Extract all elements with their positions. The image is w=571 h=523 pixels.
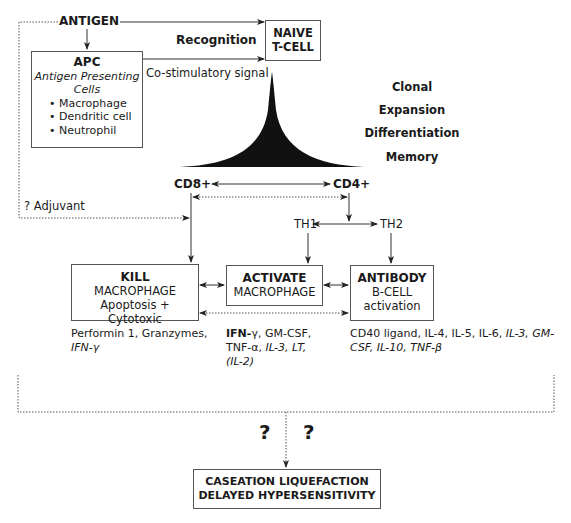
apc-title: APC (32, 56, 142, 70)
kill-line3: Apoptosis + Cytotoxic (72, 298, 198, 326)
stage-clonal: Clonal (352, 80, 472, 94)
antigen-label: ANTIGEN (58, 14, 120, 28)
ifn-label: IFN- (226, 327, 251, 340)
kill-cytokines-line1: Performin 1, Granzymes, (71, 327, 211, 341)
activate-title: ACTIVATE (227, 271, 322, 285)
question-mark-left: ? (259, 420, 271, 444)
activate-line2: MACROPHAGE (227, 285, 322, 299)
outcome-box: CASEATION LIQUEFACTION DELAYED HYPERSENS… (193, 469, 381, 509)
kill-box: KILL MACROPHAGE Apoptosis + Cytotoxic (71, 264, 199, 321)
cd4-label: CD4+ (333, 177, 370, 191)
antibody-box: ANTIBODY B-CELL activation (350, 265, 434, 321)
kill-line2: MACROPHAGE (72, 284, 198, 298)
gamma-gmcsf: γ, GM-CSF, (251, 327, 311, 340)
stage-memory: Memory (352, 150, 472, 164)
antibody-il3: IL-3, GM- (506, 327, 554, 340)
apc-box: APC Antigen Presenting Cells • Macrophag… (31, 51, 143, 148)
antibody-line2: B-CELL (351, 285, 433, 299)
antibody-cytokines-line2: CSF, IL-10, TNF-β (350, 341, 560, 355)
antibody-cytokines-line1: CD40 ligand, IL-4, IL-5, IL-6, (350, 327, 506, 340)
apc-subtitle-2: Cells (32, 83, 142, 97)
th2-label: TH2 (380, 217, 403, 231)
activate-cytokines: IFN-γ, GM-CSF, TNF-α, IL-3, LT, (IL-2) (226, 327, 346, 369)
apc-item-neutrophil: • Neutrophil (49, 124, 142, 138)
kill-cytokines-line2: IFN-γ (71, 341, 211, 355)
cd8-label: CD8+ (174, 177, 211, 191)
costimulatory-label: Co-stimulatory signal (146, 66, 269, 80)
apc-item-dendritic: • Dendritic cell (49, 110, 142, 124)
th1-label: TH1 (294, 217, 317, 231)
kill-cytokines: Performin 1, Granzymes, IFN-γ (71, 327, 211, 355)
tnf-alpha: TNF-α, (226, 341, 266, 354)
il3-lt: IL-3, LT, (266, 341, 307, 354)
outcome-line2: DELAYED HYPERSENSITIVITY (194, 489, 380, 503)
stage-differentiation: Differentiation (352, 126, 472, 140)
naive-tcell-box: NAIVE T-CELL (265, 20, 321, 61)
antibody-cytokines: CD40 ligand, IL-4, IL-5, IL-6, IL-3, GM-… (350, 327, 560, 355)
question-mark-right: ? (303, 420, 315, 444)
antibody-line3: activation (351, 299, 433, 313)
apc-item-macrophage: • Macrophage (49, 97, 142, 111)
activate-box: ACTIVATE MACROPHAGE (226, 265, 323, 306)
naive-line2: T-CELL (266, 40, 320, 54)
adjuvant-label: ? Adjuvant (24, 199, 85, 213)
stage-expansion: Expansion (352, 103, 472, 117)
recognition-label: Recognition (176, 33, 257, 47)
kill-title: KILL (72, 270, 198, 284)
antibody-title: ANTIBODY (351, 271, 433, 285)
clonal-expansion-shape (180, 72, 365, 167)
il2: (IL-2) (226, 355, 346, 369)
naive-line1: NAIVE (266, 26, 320, 40)
apc-subtitle: Antigen Presenting (32, 70, 142, 84)
outcome-line1: CASEATION LIQUEFACTION (194, 475, 380, 489)
